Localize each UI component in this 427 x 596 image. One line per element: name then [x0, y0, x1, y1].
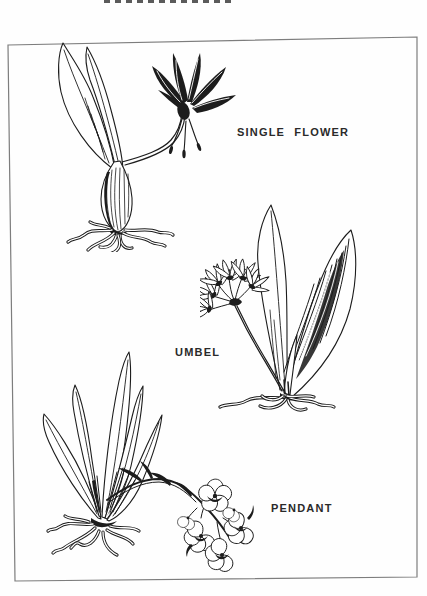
leaves: [258, 205, 356, 397]
pendant-flower-cluster: [175, 479, 256, 573]
flower-bud: [175, 514, 195, 531]
nodding-flower: [152, 53, 236, 158]
label-single-flower: SINGLE FLOWER: [237, 126, 349, 138]
roots: [48, 516, 139, 555]
leaves: [59, 43, 123, 169]
pendant-illustration: [25, 350, 257, 576]
label-umbel: UMBEL: [175, 346, 220, 358]
leaves: [43, 352, 162, 521]
scanned-figure-page: SINGLE FLOWER UMBEL PENDANT: [0, 0, 427, 596]
label-pendant: PENDANT: [271, 502, 333, 514]
bulb: [101, 161, 132, 235]
